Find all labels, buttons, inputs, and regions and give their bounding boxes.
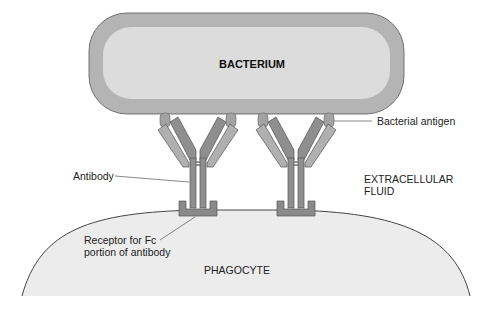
label-antibody: Antibody bbox=[73, 170, 114, 182]
label-bacterial-antigen: Bacterial antigen bbox=[377, 115, 455, 127]
antibody-2 bbox=[256, 117, 336, 208]
label-extracellular-line2: FLUID bbox=[364, 185, 394, 197]
antibody-1 bbox=[158, 117, 238, 208]
fc-receptor-1 bbox=[179, 201, 217, 216]
label-receptor-line1: Receptor for Fc bbox=[84, 234, 156, 246]
fc-receptor-2 bbox=[277, 201, 315, 216]
label-bacterium: BACTERIUM bbox=[219, 58, 285, 70]
label-receptor-line2: portion of antibody bbox=[84, 246, 170, 258]
bacterial-antigens bbox=[160, 113, 334, 127]
label-phagocyte: PHAGOCYTE bbox=[204, 264, 270, 276]
leader-antibody bbox=[115, 176, 189, 182]
label-extracellular-line1: EXTRACELLULAR bbox=[364, 173, 453, 185]
